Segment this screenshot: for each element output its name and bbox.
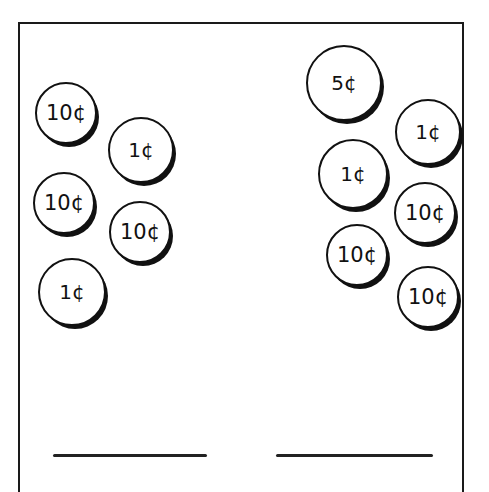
coin-label: 10¢ bbox=[405, 201, 445, 225]
coin-10c: 10¢ bbox=[397, 266, 459, 328]
coin-label: 1¢ bbox=[128, 138, 153, 162]
coin-label: 10¢ bbox=[120, 220, 160, 244]
coin-5c: 5¢ bbox=[306, 45, 382, 121]
coin-10c: 10¢ bbox=[33, 172, 95, 234]
coin-label: 10¢ bbox=[337, 243, 377, 267]
coin-label: 10¢ bbox=[44, 191, 84, 215]
coin-10c: 10¢ bbox=[394, 182, 456, 244]
coin-10c: 10¢ bbox=[35, 82, 97, 144]
coin-1c: 1¢ bbox=[108, 117, 174, 183]
coin-label: 1¢ bbox=[59, 280, 84, 304]
coin-label: 1¢ bbox=[340, 162, 365, 186]
coin-10c: 10¢ bbox=[326, 224, 388, 286]
left-answer-line[interactable] bbox=[53, 454, 207, 457]
coin-10c: 10¢ bbox=[109, 201, 171, 263]
coin-1c: 1¢ bbox=[318, 139, 388, 209]
coin-1c: 1¢ bbox=[38, 258, 106, 326]
coin-1c: 1¢ bbox=[395, 99, 461, 165]
coin-label: 5¢ bbox=[331, 71, 356, 95]
right-answer-line[interactable] bbox=[276, 454, 433, 457]
coin-label: 1¢ bbox=[415, 120, 440, 144]
coin-label: 10¢ bbox=[408, 285, 448, 309]
coin-label: 10¢ bbox=[46, 101, 86, 125]
